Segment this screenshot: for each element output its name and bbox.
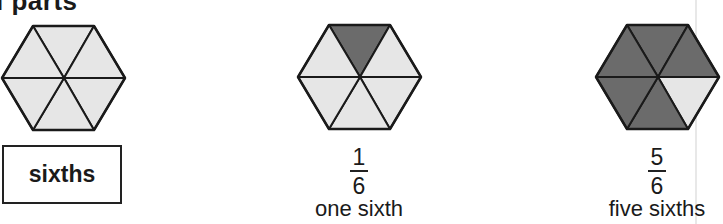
fraction-bar (350, 170, 368, 172)
hexagon-one-sixth (296, 23, 424, 131)
section-heading: l parts (0, 0, 78, 17)
sixths-label: sixths (29, 161, 95, 188)
numerator: 1 (339, 146, 379, 168)
fraction-bar (648, 170, 666, 172)
hexagon-sixths (0, 24, 128, 132)
hexagon-five-sixths (594, 23, 722, 131)
fraction-five-sixths: 5 6 (637, 146, 677, 197)
words-one-sixth: one sixth (299, 196, 419, 222)
sixths-label-box: sixths (2, 145, 122, 204)
numerator: 5 (637, 146, 677, 168)
denominator: 6 (339, 175, 379, 197)
fraction-one-sixth: 1 6 (339, 146, 379, 197)
denominator: 6 (637, 175, 677, 197)
words-five-sixths: five sixths (587, 196, 723, 222)
